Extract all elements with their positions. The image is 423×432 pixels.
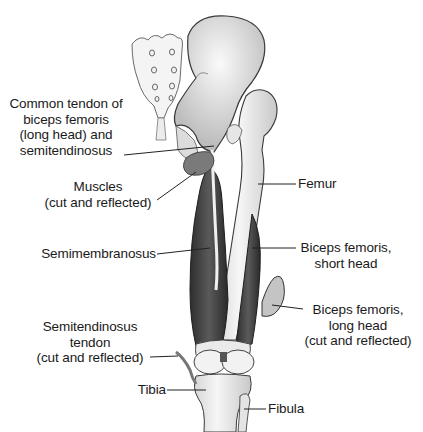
label-line: Semimembranosus [20, 246, 156, 262]
fibula [238, 394, 250, 432]
semimembranosus-muscle [190, 168, 228, 346]
label-line: Femur [298, 176, 337, 192]
label-line: Common tendon of [7, 96, 125, 112]
label-line: biceps femoris [7, 112, 125, 128]
label-line: (cut and reflected) [296, 333, 420, 349]
label-fibula: Fibula [268, 401, 304, 417]
label-line: Biceps femoris, [296, 302, 420, 318]
knee-joint [194, 340, 254, 374]
label-common-tendon: Common tendon of biceps femoris (long he… [7, 96, 125, 158]
biceps-long-head-flap [262, 276, 284, 316]
label-line: long head [296, 318, 420, 334]
label-femur: Femur [298, 176, 337, 192]
label-line: Biceps femoris, [296, 240, 396, 256]
label-line: Fibula [268, 401, 304, 417]
hamstring-anatomy-illustration [0, 0, 423, 432]
label-line: (cut and reflected) [38, 195, 158, 211]
label-line: (long head) and [7, 127, 125, 143]
label-line: Semitendinosus [30, 319, 150, 335]
semitendinosus-tendon [176, 352, 196, 384]
label-line: (cut and reflected) [30, 350, 150, 366]
label-line: tendon [30, 335, 150, 351]
label-line: semitendinosus [7, 143, 125, 159]
label-line: short head [296, 256, 396, 272]
label-biceps-short-head: Biceps femoris, short head [296, 240, 396, 271]
label-semitendinosus-tendon: Semitendinosus tendon (cut and reflected… [30, 319, 150, 366]
label-muscles-cut: Muscles (cut and reflected) [38, 179, 158, 210]
label-tibia: Tibia [120, 382, 166, 398]
label-biceps-long-head: Biceps femoris, long head (cut and refle… [296, 302, 420, 349]
label-line: Muscles [38, 179, 158, 195]
label-line: Tibia [120, 382, 166, 398]
label-semimembranosus: Semimembranosus [20, 246, 156, 262]
